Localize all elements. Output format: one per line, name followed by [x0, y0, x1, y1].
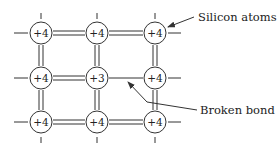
atom-charge-label: +4: [147, 27, 163, 39]
atom-charge-label: +4: [147, 116, 163, 128]
atom: +4: [86, 22, 108, 44]
atom-charge-label: +4: [89, 27, 105, 39]
broken-bond-label: Broken bond: [200, 103, 275, 117]
atom-charge-label: +4: [89, 116, 105, 128]
atom-charge-label: +3: [89, 72, 104, 84]
atom: +4: [30, 22, 52, 44]
atom-defect: +3: [86, 67, 108, 89]
silicon-lattice-diagram: +4 +4 +4 +4 +3 +4 +4 +4 +4 Silicon atoms…: [0, 0, 279, 149]
atom: +4: [144, 22, 166, 44]
atom: +4: [144, 111, 166, 133]
atom-charge-label: +4: [33, 116, 49, 128]
atom: +4: [144, 67, 166, 89]
atom-charge-label: +4: [147, 72, 163, 84]
atom: +4: [30, 111, 52, 133]
silicon-atoms-arrow-icon: [168, 17, 194, 27]
atom-charge-label: +4: [33, 27, 49, 39]
atom-charge-label: +4: [33, 72, 49, 84]
atom: +4: [30, 67, 52, 89]
silicon-atoms-label: Silicon atoms: [198, 10, 277, 24]
atom: +4: [86, 111, 108, 133]
